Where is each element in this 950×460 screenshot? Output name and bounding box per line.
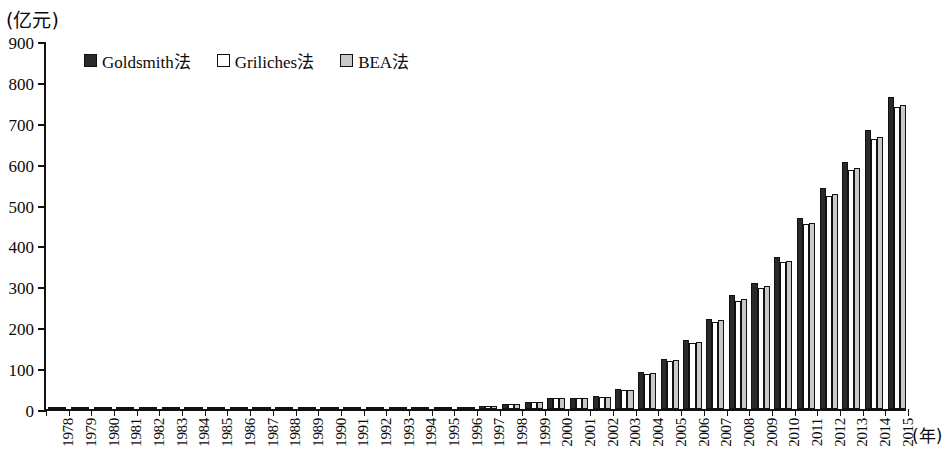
bar bbox=[696, 342, 702, 409]
x-tick-label: 1987 bbox=[266, 418, 281, 447]
x-tick-mark bbox=[159, 409, 160, 416]
bar bbox=[469, 407, 475, 409]
x-tick-label: 1979 bbox=[84, 418, 99, 447]
bar-group bbox=[545, 43, 568, 409]
y-tick-mark bbox=[38, 165, 46, 167]
bar bbox=[718, 320, 724, 409]
x-tick-label: 1996 bbox=[470, 418, 485, 447]
bar-group bbox=[250, 43, 273, 409]
x-tick-mark bbox=[250, 409, 251, 416]
bar-group bbox=[159, 43, 182, 409]
bar-group bbox=[636, 43, 659, 409]
x-tick-mark bbox=[477, 409, 478, 416]
x-tick-label: 2006 bbox=[697, 418, 712, 447]
x-tick-mark bbox=[704, 409, 705, 416]
bar bbox=[877, 137, 883, 409]
x-tick-label: 2009 bbox=[765, 418, 780, 447]
x-tick-mark bbox=[817, 409, 818, 416]
bar bbox=[60, 407, 66, 409]
x-tick-mark bbox=[795, 409, 796, 416]
bar-group bbox=[795, 43, 818, 409]
x-tick-label: 1992 bbox=[379, 418, 394, 447]
y-tick-label: 400 bbox=[0, 239, 34, 256]
x-tick-mark bbox=[227, 409, 228, 416]
bar-group bbox=[840, 43, 863, 409]
x-tick-label: 2004 bbox=[651, 418, 666, 447]
legend-swatch-icon bbox=[217, 54, 230, 67]
x-tick-mark bbox=[840, 409, 841, 416]
bar-group bbox=[137, 43, 160, 409]
y-tick-mark bbox=[38, 328, 46, 330]
x-tick-label: 1985 bbox=[220, 418, 235, 447]
x-tick-mark bbox=[681, 409, 682, 416]
bar bbox=[673, 360, 679, 409]
x-tick-mark bbox=[885, 409, 886, 416]
x-tick-label: 1981 bbox=[129, 418, 144, 447]
bar-group bbox=[590, 43, 613, 409]
bar bbox=[832, 194, 838, 409]
bar-group bbox=[69, 43, 92, 409]
bar bbox=[265, 407, 271, 409]
bar bbox=[786, 261, 792, 409]
x-tick-mark bbox=[432, 409, 433, 416]
bar bbox=[627, 390, 633, 409]
y-tick-label: 200 bbox=[0, 321, 34, 338]
bar-group bbox=[885, 43, 908, 409]
bar-group bbox=[477, 43, 500, 409]
x-tick-mark bbox=[749, 409, 750, 416]
x-tick-mark bbox=[500, 409, 501, 416]
x-tick-mark bbox=[182, 409, 183, 416]
x-tick-label: 1989 bbox=[311, 418, 326, 447]
x-tick-label: 1998 bbox=[515, 418, 530, 447]
x-tick-label: 1994 bbox=[424, 418, 439, 447]
bar bbox=[242, 407, 248, 409]
bar-group bbox=[704, 43, 727, 409]
legend-swatch-icon bbox=[84, 54, 97, 67]
bar bbox=[196, 407, 202, 409]
bar-group bbox=[613, 43, 636, 409]
bar bbox=[559, 398, 565, 409]
legend-label: BEA法 bbox=[358, 48, 409, 73]
x-tick-mark bbox=[454, 409, 455, 416]
y-tick-label: 500 bbox=[0, 198, 34, 215]
bar bbox=[219, 407, 225, 409]
bar bbox=[310, 407, 316, 409]
x-tick-mark bbox=[522, 409, 523, 416]
bar-group bbox=[522, 43, 545, 409]
bar bbox=[151, 407, 157, 409]
y-tick-mark bbox=[38, 83, 46, 85]
bar-group bbox=[454, 43, 477, 409]
y-tick-mark bbox=[38, 410, 46, 412]
bar bbox=[174, 407, 180, 409]
x-tick-label: 1997 bbox=[492, 418, 507, 447]
y-tick-mark bbox=[38, 287, 46, 289]
bar-group bbox=[341, 43, 364, 409]
x-tick-label: 2011 bbox=[810, 418, 825, 446]
x-tick-label: 1995 bbox=[447, 418, 462, 447]
x-tick-label: 1990 bbox=[334, 418, 349, 447]
y-tick-label: 600 bbox=[0, 157, 34, 174]
x-tick-label: 1982 bbox=[152, 418, 167, 447]
x-tick-label: 1988 bbox=[288, 418, 303, 447]
x-tick-mark bbox=[273, 409, 274, 416]
legend-item: BEA法 bbox=[340, 48, 409, 73]
bar bbox=[491, 406, 497, 409]
x-tick-label: 2007 bbox=[719, 418, 734, 447]
bar-group bbox=[500, 43, 523, 409]
x-tick-label: 2010 bbox=[787, 418, 802, 447]
x-tick-mark bbox=[590, 409, 591, 416]
bar-group bbox=[182, 43, 205, 409]
bar-group bbox=[386, 43, 409, 409]
bar bbox=[83, 407, 89, 409]
x-tick-label: 1983 bbox=[175, 418, 190, 447]
bar-group bbox=[409, 43, 432, 409]
x-tick-label: 1986 bbox=[243, 418, 258, 447]
x-tick-mark bbox=[386, 409, 387, 416]
x-tick-label: 1999 bbox=[538, 418, 553, 447]
y-tick-label: 0 bbox=[0, 403, 34, 420]
legend-label: Griliches法 bbox=[235, 48, 314, 73]
bars-layer bbox=[46, 43, 906, 409]
x-tick-mark bbox=[69, 409, 70, 416]
y-axis-unit-label: (亿元) bbox=[6, 5, 59, 32]
x-tick-mark bbox=[114, 409, 115, 416]
